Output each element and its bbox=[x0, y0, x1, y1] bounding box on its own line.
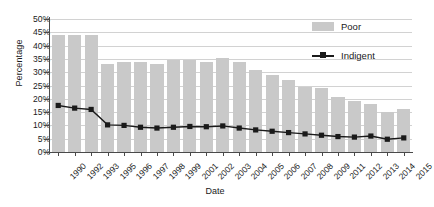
line-marker bbox=[401, 135, 406, 140]
y-axis-line bbox=[49, 17, 50, 154]
line-marker bbox=[56, 103, 61, 108]
x-tick-label: 2006 bbox=[282, 161, 302, 181]
legend-label-indigent: Indigent bbox=[341, 50, 375, 61]
line-marker bbox=[121, 123, 126, 128]
line-marker bbox=[385, 137, 390, 142]
x-axis-tick-labels: 1990199219931995199619971998199920012002… bbox=[50, 155, 412, 195]
line-marker bbox=[220, 123, 225, 128]
legend-item-poor: Poor bbox=[312, 20, 361, 32]
legend-swatch-indigent-icon bbox=[312, 51, 334, 60]
x-tick-label: 2008 bbox=[315, 161, 335, 181]
x-tick-label: 2002 bbox=[216, 161, 236, 181]
x-tick-label: 2007 bbox=[298, 161, 318, 181]
x-tick-label: 1999 bbox=[183, 161, 203, 181]
x-tick-label: 2005 bbox=[265, 161, 285, 181]
line-marker bbox=[171, 125, 176, 130]
plot-area bbox=[50, 19, 412, 152]
x-tick-label: 1997 bbox=[150, 161, 170, 181]
line-marker bbox=[237, 125, 242, 130]
x-tick-label: 2012 bbox=[364, 161, 384, 181]
line-marker bbox=[72, 106, 77, 111]
legend-swatch-poor-icon bbox=[312, 22, 334, 31]
line-marker bbox=[105, 122, 110, 127]
line-marker bbox=[302, 131, 307, 136]
line-marker bbox=[352, 135, 357, 140]
y-axis-tick-labels: 0%5%10%15%20%25%30%35%40%45%50% bbox=[0, 0, 50, 207]
line-marker bbox=[89, 107, 94, 112]
line-series-indigent bbox=[50, 19, 412, 152]
line-marker bbox=[204, 124, 209, 129]
x-tick-label: 1995 bbox=[117, 161, 137, 181]
line-marker bbox=[270, 129, 275, 134]
line-marker bbox=[286, 130, 291, 135]
x-tick-label: 1996 bbox=[134, 161, 154, 181]
x-tick-label: 2004 bbox=[249, 161, 269, 181]
line-marker bbox=[138, 125, 143, 130]
line-marker bbox=[154, 125, 159, 130]
legend-item-indigent: Indigent bbox=[312, 49, 375, 61]
x-tick-label: 1990 bbox=[68, 161, 88, 181]
x-tick-label: 2003 bbox=[232, 161, 252, 181]
x-tick-label: 1992 bbox=[84, 161, 104, 181]
line-marker bbox=[187, 124, 192, 129]
x-tick-label: 2014 bbox=[397, 161, 417, 181]
x-tick-label: 1993 bbox=[101, 161, 121, 181]
x-tick-label: 2015 bbox=[413, 161, 433, 181]
line-marker bbox=[368, 133, 373, 138]
x-tick-label: 2011 bbox=[347, 161, 367, 181]
line-marker bbox=[319, 133, 324, 138]
line-marker bbox=[253, 127, 258, 132]
line-marker bbox=[335, 134, 340, 139]
legend-label-poor: Poor bbox=[341, 21, 361, 32]
